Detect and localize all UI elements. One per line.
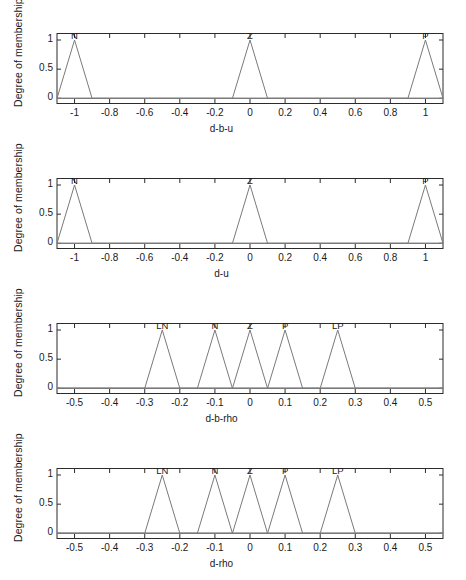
mf-curve-n bbox=[57, 185, 443, 243]
mf-annotation-p: P bbox=[405, 30, 445, 41]
y-axis-label: Degree of membership bbox=[12, 433, 24, 542]
mf-curve-p bbox=[57, 475, 443, 533]
xtick-label-10: 1 bbox=[405, 252, 445, 263]
mf-curve-z bbox=[57, 475, 443, 533]
mf-annotation-ln: LN bbox=[142, 465, 182, 476]
xtick-label-9: 0.8 bbox=[370, 107, 410, 118]
mf-annotation-n: N bbox=[55, 30, 95, 41]
xtick-label-8: 0.6 bbox=[335, 252, 375, 263]
xtick-label-7: 0.4 bbox=[300, 107, 340, 118]
xtick-label-6: 0.2 bbox=[265, 252, 305, 263]
ytick-label-1: 0.5 bbox=[39, 62, 53, 73]
xtick-label-1: -0.4 bbox=[90, 542, 130, 553]
xtick-label-0: -1 bbox=[55, 252, 95, 263]
mf-curve-lp bbox=[57, 475, 443, 533]
mf-curve-z bbox=[57, 185, 443, 243]
xtick-label-1: -0.8 bbox=[90, 107, 130, 118]
xtick-label-2: -0.3 bbox=[125, 397, 165, 408]
xtick-label-10: 0.5 bbox=[405, 397, 445, 408]
mf-annotation-z: Z bbox=[230, 465, 270, 476]
mf-annotation-z: Z bbox=[230, 175, 270, 186]
xtick-label-8: 0.3 bbox=[335, 542, 375, 553]
plot-frame bbox=[57, 324, 443, 394]
xtick-label-9: 0.4 bbox=[370, 542, 410, 553]
xtick-label-3: -0.2 bbox=[160, 397, 200, 408]
y-axis-label: Degree of membership bbox=[12, 288, 24, 397]
plot-frame bbox=[57, 179, 443, 249]
x-axis-label: d-u bbox=[0, 268, 443, 279]
xtick-label-6: 0.2 bbox=[265, 107, 305, 118]
mf-annotation-n: N bbox=[195, 320, 235, 331]
plot-area-3 bbox=[0, 468, 466, 540]
chart-panel-1: 00.51-1-0.8-0.6-0.4-0.200.20.40.60.81NZP… bbox=[0, 178, 466, 308]
xtick-label-7: 0.4 bbox=[300, 252, 340, 263]
xtick-label-7: 0.2 bbox=[300, 397, 340, 408]
x-axis-label: d-rho bbox=[0, 558, 443, 569]
ytick-label-2: 1 bbox=[47, 33, 53, 44]
ytick-label-0: 0 bbox=[47, 91, 53, 102]
plot-area-1 bbox=[0, 178, 466, 250]
mf-curve-p bbox=[57, 330, 443, 388]
xtick-label-7: 0.2 bbox=[300, 542, 340, 553]
mf-curve-n bbox=[57, 330, 443, 388]
x-axis-label: d-b-u bbox=[0, 123, 443, 134]
xtick-label-0: -1 bbox=[55, 107, 95, 118]
plot-area-0 bbox=[0, 33, 466, 105]
figure-canvas: 00.51-1-0.8-0.6-0.4-0.200.20.40.60.81NZP… bbox=[0, 0, 466, 580]
ytick-label-2: 1 bbox=[47, 178, 53, 189]
mf-annotation-lp: LP bbox=[318, 465, 358, 476]
mf-curve-ln bbox=[57, 330, 443, 388]
xtick-label-10: 0.5 bbox=[405, 542, 445, 553]
mf-annotation-p: P bbox=[405, 175, 445, 186]
mf-curve-n bbox=[57, 40, 443, 98]
xtick-label-2: -0.6 bbox=[125, 252, 165, 263]
ytick-label-0: 0 bbox=[47, 526, 53, 537]
xtick-label-1: -0.8 bbox=[90, 252, 130, 263]
mf-curve-n bbox=[57, 475, 443, 533]
mf-annotation-p: P bbox=[265, 320, 305, 331]
xtick-label-2: -0.3 bbox=[125, 542, 165, 553]
plot-frame bbox=[57, 469, 443, 539]
xtick-label-3: -0.4 bbox=[160, 252, 200, 263]
plot-area-2 bbox=[0, 323, 466, 395]
ytick-label-0: 0 bbox=[47, 236, 53, 247]
x-axis-label: d-b-rho bbox=[0, 413, 443, 424]
xtick-label-6: 0.1 bbox=[265, 397, 305, 408]
ytick-label-0: 0 bbox=[47, 381, 53, 392]
chart-panel-0: 00.51-1-0.8-0.6-0.4-0.200.20.40.60.81NZP… bbox=[0, 33, 466, 163]
mf-curve-p bbox=[57, 185, 443, 243]
xtick-label-8: 0.3 bbox=[335, 397, 375, 408]
xtick-label-5: 0 bbox=[230, 107, 270, 118]
xtick-label-3: -0.4 bbox=[160, 107, 200, 118]
mf-annotation-n: N bbox=[195, 465, 235, 476]
plot-frame bbox=[57, 34, 443, 104]
xtick-label-4: -0.2 bbox=[195, 252, 235, 263]
mf-curve-p bbox=[57, 40, 443, 98]
mf-annotation-n: N bbox=[55, 175, 95, 186]
xtick-label-9: 0.8 bbox=[370, 252, 410, 263]
xtick-label-4: -0.1 bbox=[195, 542, 235, 553]
y-axis-label: Degree of membership bbox=[12, 0, 24, 107]
chart-panel-3: 00.51-0.5-0.4-0.3-0.2-0.100.10.20.30.40.… bbox=[0, 468, 466, 580]
mf-curve-ln bbox=[57, 475, 443, 533]
ytick-label-1: 0.5 bbox=[39, 497, 53, 508]
ytick-label-2: 1 bbox=[47, 323, 53, 334]
mf-curve-z bbox=[57, 330, 443, 388]
xtick-label-3: -0.2 bbox=[160, 542, 200, 553]
mf-annotation-lp: LP bbox=[318, 320, 358, 331]
ytick-label-2: 1 bbox=[47, 468, 53, 479]
xtick-label-0: -0.5 bbox=[55, 542, 95, 553]
xtick-label-2: -0.6 bbox=[125, 107, 165, 118]
mf-annotation-z: Z bbox=[230, 320, 270, 331]
xtick-label-5: 0 bbox=[230, 252, 270, 263]
mf-curve-lp bbox=[57, 330, 443, 388]
y-axis-label: Degree of membership bbox=[12, 143, 24, 252]
mf-curve-z bbox=[57, 40, 443, 98]
chart-panel-2: 00.51-0.5-0.4-0.3-0.2-0.100.10.20.30.40.… bbox=[0, 323, 466, 453]
xtick-label-4: -0.1 bbox=[195, 397, 235, 408]
mf-annotation-p: P bbox=[265, 465, 305, 476]
xtick-label-5: 0 bbox=[230, 397, 270, 408]
ytick-label-1: 0.5 bbox=[39, 352, 53, 363]
xtick-label-4: -0.2 bbox=[195, 107, 235, 118]
xtick-label-5: 0 bbox=[230, 542, 270, 553]
